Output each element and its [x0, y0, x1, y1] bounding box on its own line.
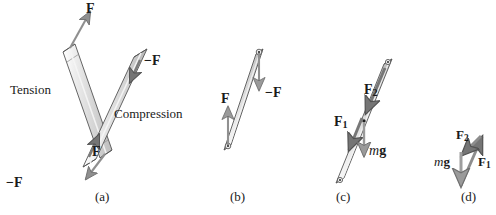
caption-d: (d) — [461, 190, 476, 203]
label-c-force-1-symbol: F — [334, 114, 343, 129]
label-c-force-2: F2 — [364, 83, 378, 98]
panel-b-bar-body — [224, 49, 263, 150]
label-c-force-2-symbol: F — [364, 82, 373, 97]
label-c-weight: mg — [369, 144, 386, 158]
label-d-force-2-symbol: F — [456, 127, 464, 142]
label-c-force-1: F1 — [334, 115, 348, 130]
label-a-compression-force-top: −F — [144, 54, 161, 68]
label-d-force-2: F2 — [456, 128, 469, 143]
physics-figure-tension-compression: F −F Tension −F F Compression (a) F −F (… — [0, 0, 496, 215]
label-a-tension: Tension — [10, 83, 51, 96]
figure-vector-graphics — [0, 0, 496, 215]
label-d-force-2-subscript: 2 — [464, 133, 469, 143]
label-a-compression: Compression — [114, 107, 183, 120]
label-b-force-upper: −F — [265, 86, 282, 100]
label-d-force-1-subscript: 1 — [486, 160, 491, 170]
panel-b-bar — [224, 49, 263, 150]
label-d-weight-mass: m — [434, 154, 443, 169]
caption-c: (c) — [336, 190, 350, 203]
tension-force-arrow-top — [70, 12, 90, 48]
label-c-weight-gravity: g — [379, 143, 386, 158]
label-a-compression-force-bottom: F — [92, 145, 101, 159]
label-a-force-bottom: −F — [6, 176, 23, 190]
label-d-force-1-symbol: F — [478, 154, 486, 169]
label-c-force-2-subscript: 2 — [373, 87, 378, 98]
label-a-force-top: F — [86, 2, 95, 16]
caption-b: (b) — [230, 190, 245, 203]
label-c-force-1-subscript: 1 — [343, 119, 348, 130]
caption-a: (a) — [95, 190, 109, 203]
label-d-weight-gravity: g — [443, 154, 450, 169]
label-d-weight: mg — [434, 155, 450, 168]
panel-a-tension-bar — [22, 12, 112, 186]
label-b-force-lower: F — [221, 92, 230, 106]
label-c-weight-mass: m — [369, 143, 379, 158]
label-d-force-1: F1 — [478, 155, 491, 170]
